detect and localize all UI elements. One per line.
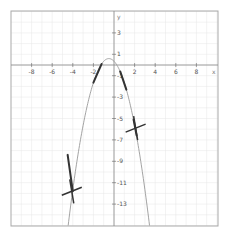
highlight-segment <box>120 71 126 89</box>
x-tick-label: -2 <box>90 68 96 75</box>
x-tick-label: 4 <box>153 68 157 75</box>
graph-canvas: -8-6-4-2246831-1-3-5-7-9-11-13 x y <box>0 0 227 240</box>
x-tick-label: 2 <box>133 68 137 75</box>
tick-labels: -8-6-4-2246831-1-3-5-7-9-11-13 <box>29 29 199 207</box>
y-tick-label: -3 <box>117 93 123 100</box>
y-tick-label: 3 <box>117 29 121 36</box>
y-tick-label: -13 <box>117 200 127 207</box>
y-axis-label: y <box>117 13 121 21</box>
y-tick-label: -9 <box>117 157 123 164</box>
x-tick-label: -8 <box>29 68 35 75</box>
x-tick-label: -4 <box>70 68 76 75</box>
x-axis-label: x <box>212 68 216 75</box>
y-tick-label: 1 <box>117 50 121 57</box>
y-tick-label: -7 <box>117 136 123 143</box>
x-tick-label: 6 <box>174 68 178 75</box>
x-tick-label: -6 <box>49 68 55 75</box>
y-tick-label: -5 <box>117 115 123 122</box>
y-tick-label: -11 <box>117 179 127 186</box>
parabola-curve <box>68 59 149 226</box>
x-tick-label: 8 <box>194 68 198 75</box>
